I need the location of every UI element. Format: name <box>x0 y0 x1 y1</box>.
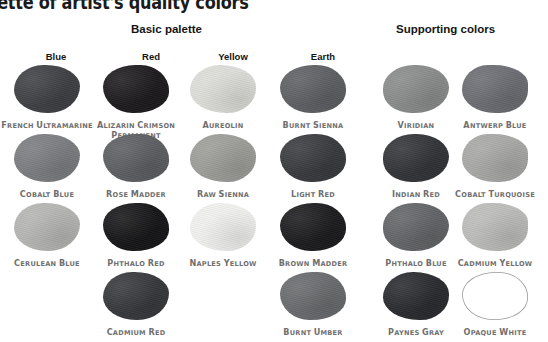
column-heading-blue: Blue <box>23 51 89 62</box>
color-swatch[interactable] <box>280 134 346 182</box>
swatch-cell[interactable]: Burnt Sienna <box>267 65 359 131</box>
color-swatch[interactable] <box>462 65 528 113</box>
swatch-cell[interactable]: Opaque White <box>449 272 541 338</box>
swatch-label: Burnt Umber <box>267 328 359 338</box>
swatch-label: Cerulean Blue <box>1 259 93 269</box>
color-swatch[interactable] <box>462 134 528 182</box>
color-swatch[interactable] <box>280 65 346 113</box>
swatch-cell[interactable]: Brown Madder <box>267 203 359 269</box>
swatch-cell[interactable]: Naples Yellow <box>177 203 269 269</box>
swatch-cell[interactable]: Cobalt Turquoise <box>449 134 541 200</box>
color-swatch[interactable] <box>383 65 449 113</box>
swatch-cell[interactable]: Light Red <box>267 134 359 200</box>
swatch-label: Light Red <box>267 190 359 200</box>
page-title: palette of artist's quality colors <box>0 0 448 14</box>
swatch-label: Antwerp Blue <box>449 121 541 131</box>
swatch-cell[interactable]: Rose Madder <box>90 134 182 200</box>
color-swatch[interactable] <box>103 65 169 113</box>
palette-page: { "title": "palette of artist's quality … <box>0 0 548 342</box>
color-swatch[interactable] <box>103 203 169 251</box>
color-swatch[interactable] <box>383 134 449 182</box>
color-swatch[interactable] <box>14 203 80 251</box>
group-heading-supporting-colors: Supporting colors <box>396 23 495 35</box>
color-swatch[interactable] <box>280 203 346 251</box>
swatch-cell[interactable]: Raw Sienna <box>177 134 269 200</box>
color-swatch[interactable] <box>14 134 80 182</box>
swatch-cell[interactable]: Cerulean Blue <box>1 203 93 269</box>
swatch-label: Naples Yellow <box>177 259 269 269</box>
swatch-cell[interactable]: Burnt Umber <box>267 272 359 338</box>
color-swatch[interactable] <box>103 272 169 320</box>
color-swatch[interactable] <box>462 272 528 320</box>
swatch-cell[interactable]: Cobalt Blue <box>1 134 93 200</box>
group-heading-basic-palette: Basic palette <box>131 23 202 35</box>
color-swatch[interactable] <box>190 65 256 113</box>
column-heading-earth: Earth <box>290 51 356 62</box>
column-heading-red: Red <box>118 51 184 62</box>
swatch-label: Opaque White <box>449 328 541 338</box>
swatch-cell[interactable]: Aureolin <box>177 65 269 131</box>
swatch-cell[interactable]: Cadmium Yellow <box>449 203 541 269</box>
swatch-cell[interactable]: French Ultramarine <box>1 65 93 131</box>
swatch-label: Cobalt Turquoise <box>449 190 541 200</box>
swatch-label: Raw Sienna <box>177 190 269 200</box>
swatch-label: Cadmium Yellow <box>449 259 541 269</box>
color-swatch[interactable] <box>190 203 256 251</box>
color-swatch[interactable] <box>383 272 449 320</box>
swatch-cell[interactable]: Phthalo Red <box>90 203 182 269</box>
column-heading-yellow: Yellow <box>200 51 266 62</box>
color-swatch[interactable] <box>280 272 346 320</box>
swatch-cell[interactable]: Antwerp Blue <box>449 65 541 131</box>
swatch-label: Rose Madder <box>90 190 182 200</box>
swatch-label: Brown Madder <box>267 259 359 269</box>
color-swatch[interactable] <box>103 134 169 182</box>
swatch-cell[interactable]: Cadmium Red <box>90 272 182 338</box>
color-swatch[interactable] <box>462 203 528 251</box>
swatch-label: Aureolin <box>177 121 269 131</box>
swatch-label: Phthalo Red <box>90 259 182 269</box>
swatch-label: Burnt Sienna <box>267 121 359 131</box>
swatch-label: Cobalt Blue <box>1 190 93 200</box>
color-swatch[interactable] <box>383 203 449 251</box>
swatch-label: French Ultramarine <box>1 121 93 131</box>
color-swatch[interactable] <box>190 134 256 182</box>
color-swatch[interactable] <box>14 65 80 113</box>
swatch-cell[interactable]: Alizarin Crimson Permanent <box>90 65 182 140</box>
swatch-label: Cadmium Red <box>90 328 182 338</box>
